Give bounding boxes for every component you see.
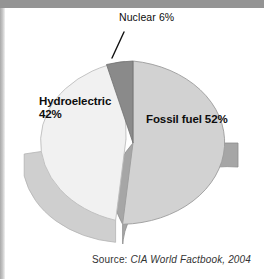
pie-chart-figure: Nuclear 6% Hydroelectric 42% Fossil fuel… [0,0,264,279]
slice-label-fossil-fuel: Fossil fuel 52% [146,113,228,126]
source-caption-lead: Source: [92,254,128,265]
pie-slice-fossil-fuel-top [123,61,225,224]
source-caption: Source: CIA World Factbook, 2004 [0,254,251,265]
slice-label-nuclear: Nuclear 6% [119,12,174,24]
slice-label-hydroelectric: Hydroelectric 42% [39,95,111,121]
source-reference-text: CIA World Factbook, 2004 [130,254,251,265]
source-caption-reference: CIA World Factbook, 2004 [128,254,251,265]
nuclear-leader-line [112,32,124,58]
